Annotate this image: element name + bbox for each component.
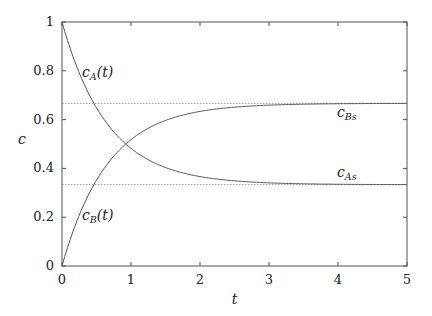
y-tick-label: 0: [46, 258, 54, 273]
curves: [62, 22, 407, 266]
label-cA: cA(t): [82, 64, 113, 82]
concentration-chart: 01234500.20.40.60.81 cA(t)cB(t)cBscAstc: [0, 0, 432, 316]
x-tick-label: 5: [403, 272, 411, 287]
y-tick-label: 0.4: [33, 160, 54, 175]
y-tick-label: 0.8: [33, 63, 54, 78]
label-cBs: cBs: [337, 104, 357, 122]
y-tick-label: 0.6: [33, 112, 54, 127]
y-tick-label: 0.2: [33, 209, 54, 224]
axis-ticks: 01234500.20.40.60.81: [33, 14, 411, 287]
x-tick-label: 0: [58, 272, 66, 287]
x-axis-label: t: [232, 291, 238, 307]
x-tick-label: 1: [127, 272, 135, 287]
x-tick-label: 4: [334, 272, 342, 287]
x-tick-label: 2: [196, 272, 204, 287]
y-axis-label: c: [18, 131, 26, 147]
plot-frame: [62, 22, 407, 266]
label-cB: cB(t): [82, 207, 113, 225]
y-tick-label: 1: [46, 14, 54, 29]
labels: cA(t)cB(t)cBscAstc: [18, 64, 357, 307]
x-tick-label: 3: [265, 272, 273, 287]
label-cAs: cAs: [337, 164, 357, 182]
axes-box: [62, 22, 407, 266]
